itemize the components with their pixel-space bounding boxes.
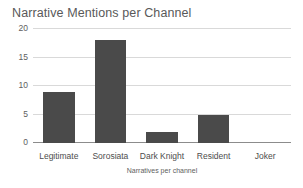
chart-title: Narrative Mentions per Channel [12, 6, 191, 20]
bar[interactable] [146, 132, 177, 143]
bar-slot [33, 29, 85, 143]
bar[interactable] [198, 115, 229, 144]
bar-chart: Narrative Mentions per Channel 05101520 … [0, 0, 303, 188]
x-axis-tick-labels: LegitimateSorosiataDark KnightResidentJo… [33, 145, 291, 163]
y-axis-tick-label: 20 [19, 23, 28, 33]
bar-slot [239, 29, 291, 143]
y-axis-tick-label: 15 [19, 52, 28, 62]
x-axis-tick-label: Legitimate [39, 151, 78, 161]
bar-slot [136, 29, 188, 143]
bar[interactable] [43, 92, 74, 143]
xtick-slot: Legitimate [33, 145, 85, 163]
bar-slot [188, 29, 240, 143]
plot-area: 05101520 [33, 29, 291, 143]
bar[interactable] [95, 40, 126, 143]
y-axis-tick-label: 0 [23, 137, 28, 147]
xtick-slot: Dark Knight [136, 145, 188, 163]
y-axis-tick-label: 5 [23, 109, 28, 119]
bar-series [33, 29, 291, 143]
xtick-slot: Sorosiata [85, 145, 137, 163]
x-axis-tick-label: Sorosiata [92, 151, 128, 161]
xtick-slot: Joker [239, 145, 291, 163]
xtick-slot: Resident [188, 145, 240, 163]
x-axis-tick-label: Joker [255, 151, 276, 161]
x-axis-title: Narratives per channel [33, 167, 291, 174]
x-axis-tick-label: Resident [197, 151, 231, 161]
y-axis-tick-label: 10 [19, 80, 28, 90]
x-axis-tick-label: Dark Knight [140, 151, 184, 161]
bar-slot [85, 29, 137, 143]
